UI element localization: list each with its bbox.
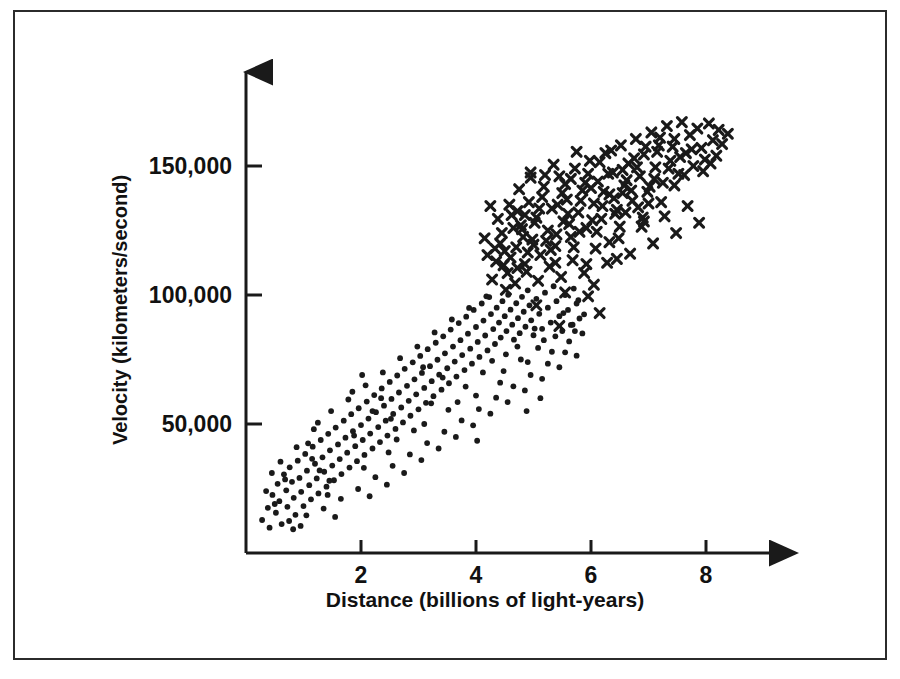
data-point-cross — [677, 118, 686, 127]
data-point-dot — [321, 506, 327, 512]
data-point-dot — [503, 351, 509, 357]
data-point-cross — [634, 203, 643, 212]
data-point-cross — [714, 125, 723, 134]
data-point-dot — [509, 322, 515, 328]
data-point-dot — [571, 286, 577, 292]
data-point-dot — [361, 465, 367, 471]
data-point-dot — [329, 463, 335, 469]
data-point-dot — [341, 418, 347, 424]
data-point-cross — [502, 285, 511, 294]
data-point-cross — [587, 184, 596, 193]
data-point-dot — [481, 318, 487, 324]
data-point-cross — [635, 172, 644, 181]
data-point-dot — [320, 454, 326, 460]
data-point-dot — [548, 320, 554, 326]
data-point-dot — [396, 390, 402, 396]
data-point-dot — [354, 458, 360, 464]
data-point-dot — [400, 420, 406, 426]
data-point-dot — [370, 446, 376, 452]
data-point-dot — [539, 326, 545, 332]
data-point-dot — [359, 372, 365, 378]
data-point-dot — [316, 491, 322, 497]
data-point-cross — [614, 234, 623, 243]
x-axis-ticks — [361, 540, 706, 553]
data-point-dot — [360, 437, 366, 443]
data-point-cross — [641, 142, 650, 151]
data-point-dot — [497, 380, 503, 386]
data-point-dot — [440, 375, 446, 381]
data-point-dot — [508, 307, 514, 313]
data-point-dot — [394, 373, 400, 379]
data-point-dot — [489, 358, 495, 364]
data-point-dot — [345, 397, 351, 403]
data-point-dot — [528, 317, 534, 323]
data-point-cross — [589, 280, 598, 289]
data-point-dot — [487, 411, 493, 417]
data-point-dot — [433, 340, 439, 346]
data-point-cross — [699, 167, 708, 176]
data-point-dot — [317, 468, 323, 474]
data-point-dot — [532, 326, 538, 332]
data-point-dot — [312, 461, 318, 467]
data-point-dot — [363, 382, 369, 388]
data-point-dot — [511, 337, 517, 343]
data-point-dot — [525, 287, 531, 293]
data-point-dot — [351, 433, 357, 439]
data-point-dot — [465, 331, 471, 337]
data-point-dot — [579, 331, 585, 337]
data-point-dot — [476, 406, 482, 412]
data-point-cross — [697, 144, 706, 153]
data-point-cross — [580, 269, 589, 278]
data-point-dot — [398, 405, 404, 411]
data-point-dot — [513, 300, 519, 306]
data-point-dot — [480, 370, 486, 376]
data-point-dot — [420, 364, 426, 370]
data-point-dot — [397, 355, 403, 361]
data-point-dot — [493, 395, 499, 401]
data-point-dot — [344, 450, 350, 456]
data-point-dot — [545, 305, 551, 311]
data-point-dot — [459, 417, 465, 423]
data-point-dot — [448, 327, 454, 333]
data-point-cross — [670, 181, 679, 190]
data-point-dot — [384, 482, 390, 488]
data-point-dot — [380, 370, 386, 376]
data-point-dot — [453, 434, 459, 440]
data-point-cross — [486, 202, 495, 211]
data-point-dot — [562, 349, 568, 355]
data-point-dot — [435, 357, 441, 363]
data-point-dot — [502, 313, 508, 319]
data-point-dot — [436, 446, 442, 452]
data-point-dot — [531, 332, 537, 338]
data-point-cross — [571, 164, 580, 173]
data-point-dot — [566, 339, 572, 345]
data-point-dot — [446, 407, 452, 413]
data-point-dot — [554, 298, 560, 304]
data-point-dot — [458, 337, 464, 343]
data-point-dot — [473, 324, 479, 330]
data-point-cross — [595, 309, 604, 318]
data-point-dot — [333, 425, 339, 431]
data-point-cross — [534, 276, 543, 285]
data-point-dot — [379, 385, 385, 391]
data-point-dot — [551, 283, 557, 289]
data-point-dot — [504, 328, 510, 334]
data-point-dot — [389, 396, 395, 402]
data-point-dot — [521, 309, 527, 315]
data-point-dot — [577, 316, 583, 322]
data-point-dot — [349, 389, 355, 395]
data-point-cross — [569, 243, 578, 252]
data-point-cross — [511, 279, 520, 288]
data-point-dot — [338, 496, 344, 502]
data-point-cross — [491, 244, 500, 253]
data-point-dot — [482, 333, 488, 339]
data-point-dot — [328, 408, 334, 414]
data-point-cross — [598, 202, 607, 211]
data-point-dot — [446, 380, 452, 386]
data-point-dot — [428, 400, 434, 406]
data-point-cross — [549, 160, 558, 169]
data-point-cross — [630, 154, 639, 163]
scatter-plot: 2468 50,000100,000150,000 Distance (bill… — [0, 0, 900, 679]
data-point-dot — [286, 518, 292, 524]
data-point-dot — [416, 406, 422, 412]
